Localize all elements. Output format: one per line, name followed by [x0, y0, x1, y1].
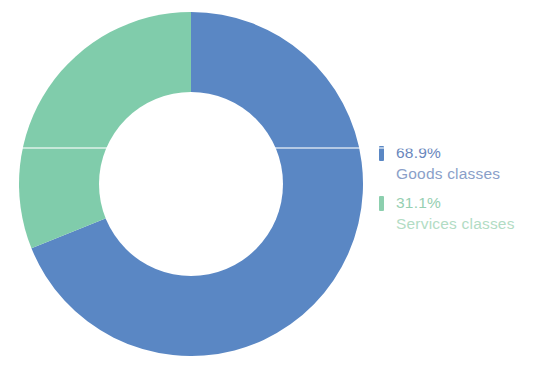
chart-legend: 68.9% Goods classes 31.1% Services class…	[379, 143, 539, 243]
legend-value-services-classes: 31.1%	[396, 193, 539, 213]
legend-item-goods-classes[interactable]: 68.9% Goods classes	[379, 143, 539, 184]
legend-label-services-classes: Services classes	[396, 213, 539, 234]
donut-center-hole	[99, 92, 283, 276]
legend-item-services-classes[interactable]: 31.1% Services classes	[379, 193, 539, 234]
legend-value-goods-classes: 68.9%	[396, 143, 539, 163]
legend-swatch-services-classes	[379, 196, 384, 211]
legend-swatch-goods-classes	[379, 146, 384, 161]
donut-svg	[19, 12, 363, 356]
legend-label-goods-classes: Goods classes	[396, 163, 539, 184]
donut-chart-figure: 68.9% Goods classes 31.1% Services class…	[0, 0, 539, 372]
donut-chart-graphic	[19, 12, 363, 356]
